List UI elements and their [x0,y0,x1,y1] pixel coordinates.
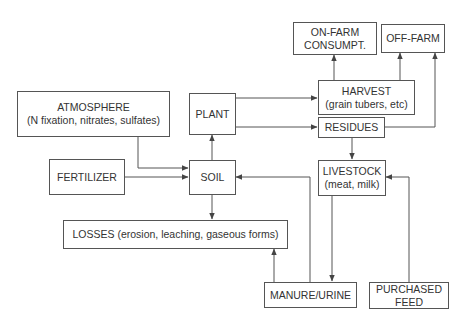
node-fertilizer: FERTILIZER [49,159,125,195]
node-atmosphere-title: ATMOSPHERE [57,101,130,114]
node-residues-title: RESIDUES [325,121,379,134]
node-losses-title: LOSSES (erosion, leaching, gaseous forms… [72,228,278,241]
node-on-farm-line1: ON-FARM [311,26,359,39]
arrow-feed-to-livestock [386,177,409,282]
node-residues: RESIDUES [318,117,385,138]
node-losses: LOSSES (erosion, leaching, gaseous forms… [63,220,288,249]
node-purchased-feed-line2: FEED [395,296,423,309]
node-livestock-subtitle: (meat, milk) [325,178,380,191]
node-off-farm-title: OFF-FARM [386,32,440,45]
node-harvest-subtitle: (grain tubers, etc) [325,98,407,111]
node-livestock: LIVESTOCK (meat, milk) [318,160,386,196]
node-harvest: HARVEST (grain tubers, etc) [318,80,415,115]
node-atmosphere: ATMOSPHERE (N fixation, nitrates, sulfat… [17,91,170,137]
node-manure-title: MANURE/URINE [270,289,351,302]
node-soil: SOIL [189,160,236,195]
node-purchased-feed-line1: PURCHASED [376,283,442,296]
arrow-atmosphere-to-soil [138,136,188,168]
node-soil-title: SOIL [201,171,225,184]
node-purchased-feed: PURCHASED FEED [369,282,449,309]
node-plant-title: PLANT [196,108,230,121]
node-atmosphere-subtitle: (N fixation, nitrates, sulfates) [27,114,160,127]
node-on-farm-line2: CONSUMPT. [304,39,366,52]
node-harvest-title: HARVEST [342,85,391,98]
node-off-farm: OFF-FARM [381,24,445,53]
node-manure-urine: MANURE/URINE [264,282,357,308]
node-on-farm-consumption: ON-FARM CONSUMPT. [293,22,377,55]
node-plant: PLANT [189,93,236,135]
node-livestock-title: LIVESTOCK [323,165,382,178]
node-fertilizer-title: FERTILIZER [57,171,117,184]
